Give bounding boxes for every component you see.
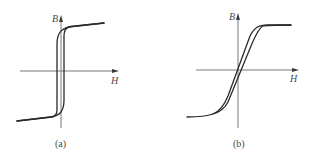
hysteresis-figure: B H (a) B H (b) [0, 0, 310, 161]
panel-b: B H (b) [187, 11, 299, 150]
panel-b-x-axis-label: H [289, 73, 298, 84]
panel-a-caption: (a) [55, 138, 66, 150]
panel-b-y-axis-label: B [229, 11, 235, 22]
panel-a: B H (a) [17, 13, 119, 150]
panel-a-x-axis-label: H [110, 75, 119, 86]
panel-a-b-axis-arrow-icon [59, 15, 63, 22]
panel-a-loop-ascending-branch [17, 23, 104, 121]
panel-a-loop-descending-branch [17, 23, 104, 121]
panel-b-b-axis-arrow-icon [236, 13, 240, 20]
panel-b-h-axis-arrow-icon [292, 68, 299, 72]
panel-b-caption: (b) [233, 138, 245, 150]
panel-a-h-axis-arrow-icon [112, 69, 119, 73]
panel-b-loop-ascending-branch [213, 25, 291, 114]
panel-b-loop-descending-branch [187, 25, 291, 117]
panel-a-y-axis-label: B [52, 13, 58, 24]
